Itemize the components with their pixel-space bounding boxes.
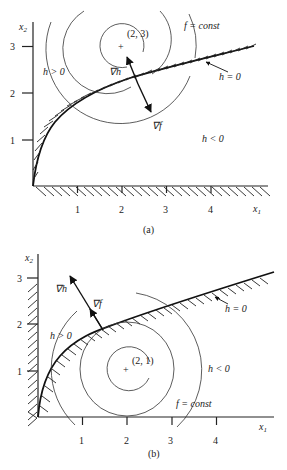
boundary-pointer-a (206, 62, 228, 72)
center-marker-b: + (123, 364, 129, 375)
x-axis-label: x1 (252, 203, 261, 216)
center-label-a: (2, 3) (127, 28, 149, 40)
y-tick-1: 1 (17, 366, 22, 377)
h-negative-label-b: h < 0 (208, 363, 230, 374)
x-tick-4: 4 (208, 204, 213, 215)
y-axis-label: x2 (24, 252, 33, 265)
figure-canvas: 1 2 3 4 x1 3 2 1 x2 + (2, 3) (0, 0, 287, 470)
boundary-hatching (33, 44, 256, 180)
y-ticks (22, 47, 33, 141)
x-tick-1: 1 (75, 204, 80, 215)
grad-f-arrow-b (90, 309, 103, 330)
h-positive-label-b: h > 0 (50, 330, 72, 341)
contour-label-a: f = const (184, 20, 220, 31)
y-axis-hatching (28, 284, 37, 426)
y-tick-3: 3 (17, 273, 22, 284)
y-tick-2: 2 (10, 88, 15, 99)
panel-a: 1 2 3 4 x1 3 2 1 x2 + (2, 3) (10, 11, 270, 236)
center-label-b: (2, 1) (132, 355, 154, 367)
x-axis-label: x1 (258, 421, 267, 434)
panel-b: 1 2 3 4 x1 3 2 1 x2 + (2, 1) ∇h (17, 252, 274, 460)
grad-f-arrow-a (138, 84, 151, 112)
caption-b: (b) (148, 448, 160, 460)
y-tick-3: 3 (10, 41, 15, 52)
grad-f-label-a: ∇f (152, 120, 163, 131)
contour-middle (63, 11, 171, 94)
grad-f-label-b: ∇f (92, 298, 103, 309)
constraint-boundary-h0 (38, 272, 274, 417)
x-axis-hatching (36, 187, 270, 196)
contour-outer (46, 14, 196, 124)
caption-a: (a) (143, 224, 154, 236)
x-tick-1: 1 (79, 435, 84, 446)
grad-h-label-a: ∇h (109, 66, 121, 77)
y-tick-2: 2 (17, 319, 22, 330)
x-tick-2: 2 (124, 435, 129, 446)
boundary-label-a: h = 0 (219, 71, 241, 82)
boundary-pointer-b (215, 297, 228, 304)
x-tick-4: 4 (213, 435, 218, 446)
grad-h-arrow-a (127, 57, 138, 84)
boundary-label-b: h = 0 (225, 303, 247, 314)
center-marker-a: + (118, 41, 124, 52)
grad-h-label-b: ∇h (55, 283, 67, 294)
y-tick-1: 1 (10, 135, 15, 146)
contour-label-b: f = const (176, 398, 212, 409)
x-tick-2: 2 (119, 204, 124, 215)
x-tick-3: 3 (168, 435, 173, 446)
h-positive-label-a: h > 0 (43, 66, 65, 77)
h-negative-label-a: h < 0 (202, 133, 224, 144)
x-tick-3: 3 (163, 204, 168, 215)
x-ticks (83, 417, 217, 425)
y-axis-label: x2 (18, 21, 27, 34)
